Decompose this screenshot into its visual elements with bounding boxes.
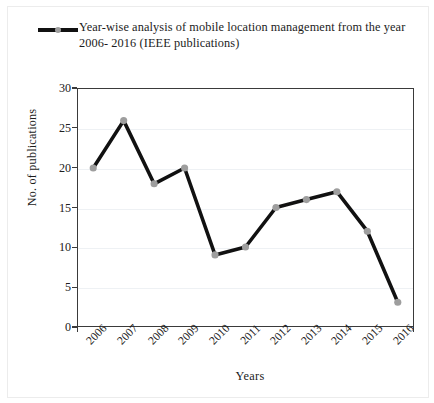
data-point-marker [272, 204, 279, 211]
data-point-marker [394, 299, 401, 306]
legend-marker-dot-icon [55, 27, 61, 33]
data-point-marker [211, 251, 218, 258]
chart-legend: Year-wise analysis of mobile location ma… [38, 20, 410, 51]
data-point-marker [242, 243, 249, 250]
data-point-marker [333, 188, 340, 195]
x-axis-tick-labels: 2006200720082009201020112012201320142015… [77, 330, 414, 378]
chart-figure: Year-wise analysis of mobile location ma… [0, 0, 434, 403]
y-axis-tick-label: 20 [38, 160, 71, 175]
line-series [78, 89, 413, 326]
y-axis-tick-label: 0 [38, 320, 71, 335]
data-point-marker [303, 196, 310, 203]
y-axis-tick-label: 25 [38, 120, 71, 135]
data-point-marker [151, 180, 158, 187]
data-point-marker [120, 117, 127, 124]
data-point-marker [181, 164, 188, 171]
y-axis-tick-label: 30 [38, 81, 71, 96]
y-axis-tick-label: 5 [38, 280, 71, 295]
legend-line-marker-icon [38, 23, 78, 36]
legend-label: Year-wise analysis of mobile location ma… [78, 20, 410, 51]
y-axis-tick-labels: 051015202530 [38, 88, 71, 327]
y-axis-tick-label: 15 [38, 200, 71, 215]
data-point-marker [364, 228, 371, 235]
plot-area [77, 88, 414, 327]
y-axis-tick-label: 10 [38, 240, 71, 255]
series-line [93, 121, 398, 303]
data-point-marker [90, 164, 97, 171]
